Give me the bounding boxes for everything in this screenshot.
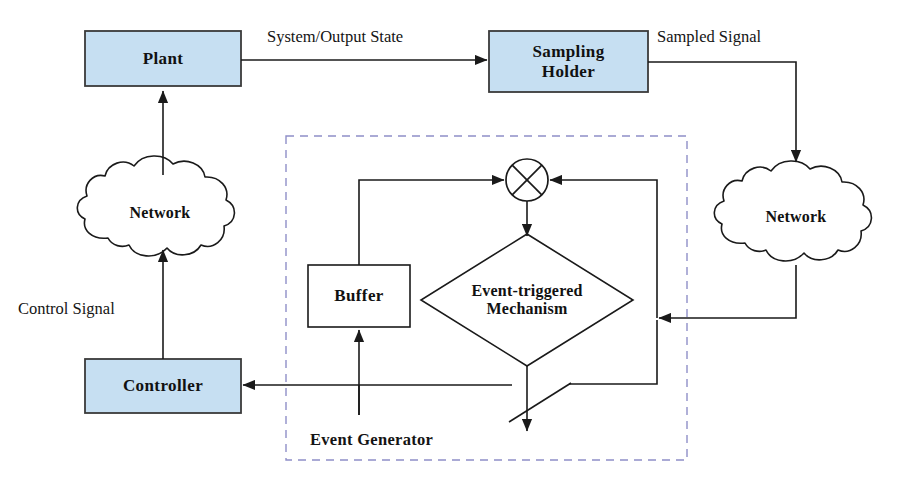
event-generator-group-label: Event Generator — [310, 430, 433, 450]
diagram-vector-layer — [0, 0, 904, 490]
buffer-block-shape[interactable] — [308, 265, 410, 327]
trigger-switch-contact[interactable] — [509, 383, 571, 422]
edge-label-control-signal: Control Signal — [18, 299, 115, 319]
controller-block-shape[interactable] — [85, 359, 241, 413]
edge-label-system-output-state: System/Output State — [267, 27, 403, 47]
network-right-cloud-shape[interactable] — [714, 161, 871, 261]
edge-sampling-holder-to-network-right — [648, 62, 796, 162]
edge-network-right-to-event-generator — [659, 265, 796, 318]
edge-label-sampled-signal: Sampled Signal — [657, 27, 761, 47]
event-triggered-mechanism-diamond-shape[interactable] — [421, 234, 633, 366]
edge-buffer-to-summing-junction — [359, 180, 504, 265]
sampling-holder-block-shape[interactable] — [489, 31, 648, 92]
plant-block-shape[interactable] — [85, 31, 241, 86]
network-left-cloud-shape[interactable] — [77, 156, 234, 256]
diagram-canvas: Plant Sampling Holder Controller Buffer … — [0, 0, 904, 490]
